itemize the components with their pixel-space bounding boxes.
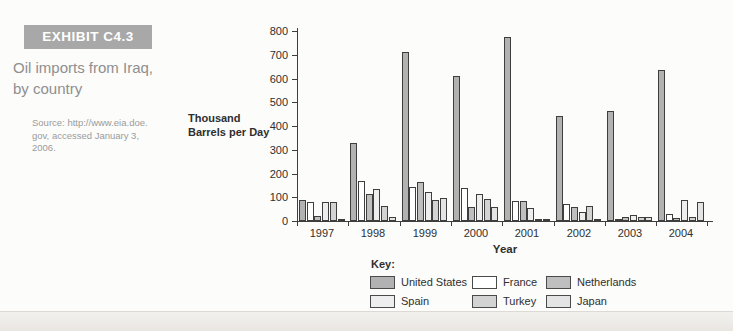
legend-swatch-france	[472, 276, 497, 289]
legend-label-japan: Japan	[577, 294, 607, 308]
legend-label-netherlands: Netherlands	[577, 275, 636, 289]
legend-swatch-netherlands	[546, 276, 571, 289]
legend-swatch-turkey	[472, 295, 497, 308]
legend-label-france: France	[503, 275, 537, 289]
legend-swatch-united-states	[370, 276, 395, 289]
page-bottom-edge	[0, 311, 733, 331]
legend-label-turkey: Turkey	[503, 294, 536, 308]
legend-swatch-spain	[370, 295, 395, 308]
legend-label-united-states: United States	[401, 275, 467, 289]
legend-label-spain: Spain	[401, 294, 429, 308]
legend-swatch-japan	[546, 295, 571, 308]
legend: United StatesFranceNetherlandsSpainTurke…	[0, 0, 733, 331]
